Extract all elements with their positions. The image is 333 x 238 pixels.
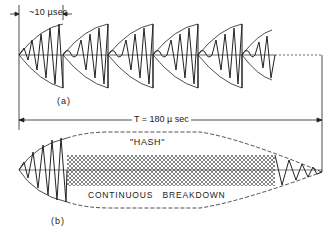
- hash-label: "HASH": [130, 138, 165, 147]
- burst-5: [198, 24, 242, 88]
- burst-3: [108, 24, 153, 88]
- burst-4: [153, 24, 198, 88]
- hash-region: [67, 155, 275, 186]
- panel-a-label: (a): [57, 97, 71, 106]
- burst-1: [19, 24, 63, 88]
- initial-envelope-bottom: [19, 170, 67, 202]
- burst-duration-label: ~10 µsec: [29, 8, 68, 17]
- burst-2: [63, 24, 108, 88]
- panel-a: [10, 5, 322, 172]
- continuous-breakdown-label: CONTINUOUS BREAKDOWN: [88, 191, 226, 200]
- panel-b-label: (b): [51, 217, 65, 226]
- period-label: T = 180 µ sec: [132, 115, 191, 124]
